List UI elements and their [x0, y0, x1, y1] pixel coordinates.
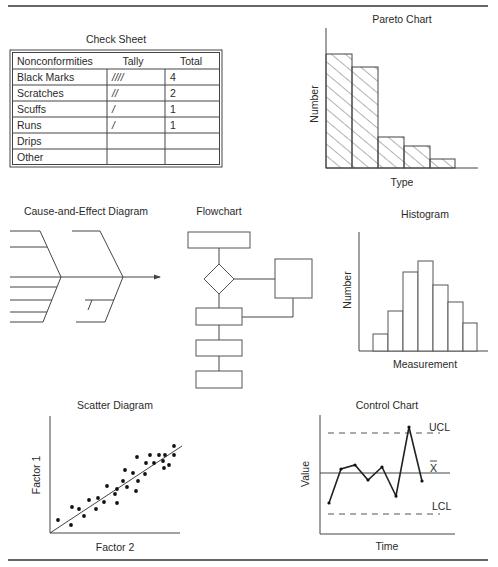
row-label: Scratches: [17, 87, 64, 99]
flowchart-title: Flowchart: [196, 205, 242, 217]
center-label: X: [430, 462, 437, 474]
check-sheet: Check Sheet Nonconformities Tally Total …: [10, 33, 222, 167]
table-row: Black Marks //// 4: [17, 71, 176, 83]
flowchart: Flowchart: [188, 205, 312, 388]
histogram: Histogram Measurement Number: [341, 208, 488, 370]
pareto-bar: [404, 146, 430, 168]
flowchart-process-box: [196, 340, 242, 356]
arrow-head-icon: [154, 275, 161, 280]
flowchart-process-box: [275, 259, 312, 298]
histogram-bar: [373, 334, 388, 351]
lcl-label: LCL: [432, 500, 451, 512]
pareto-bar: [326, 54, 352, 168]
table-row: Scratches // 2: [17, 87, 176, 99]
flowchart-decision-diamond: [204, 264, 234, 294]
row-total: 1: [170, 103, 176, 115]
check-sheet-title: Check Sheet: [86, 33, 146, 45]
histogram-bar: [403, 272, 418, 351]
scatter-ylabel: Factor 1: [30, 456, 42, 495]
row-tally: /: [111, 119, 116, 131]
pareto-ylabel: Number: [308, 85, 320, 123]
flowchart-process-box: [188, 232, 250, 248]
row-label: Drips: [17, 135, 42, 147]
histogram-bar: [448, 302, 463, 351]
row-tally: /: [111, 103, 116, 115]
scatter-xlabel: Factor 2: [96, 541, 135, 553]
scatter-title: Scatter Diagram: [77, 399, 153, 411]
pareto-bar: [352, 67, 378, 168]
control-chart: Control Chart UCL X LCL Time Value: [299, 399, 455, 552]
quality-tools-figure: Check Sheet Nonconformities Tally Total …: [0, 0, 498, 567]
histogram-bar: [418, 261, 433, 351]
row-tally: ////: [111, 71, 125, 83]
row-tally: //: [111, 87, 119, 99]
pareto-title: Pareto Chart: [372, 13, 432, 25]
histogram-ylabel: Number: [341, 271, 353, 309]
control-xlabel: Time: [376, 540, 399, 552]
fishbone-bone: [10, 231, 61, 277]
flowchart-process-box: [196, 371, 242, 388]
table-row: Drips: [17, 135, 42, 147]
histogram-bar: [433, 285, 448, 351]
row-label: Black Marks: [17, 71, 74, 83]
scatter-points: [56, 444, 176, 527]
row-label: Other: [17, 151, 44, 163]
row-label: Scuffs: [17, 103, 46, 115]
check-sheet-header: Tally: [122, 55, 144, 67]
table-row: Runs / 1: [17, 119, 176, 131]
control-data-line: [329, 427, 422, 503]
histogram-bar: [463, 323, 477, 351]
row-total: 2: [170, 87, 176, 99]
fishbone-bone: [72, 231, 123, 277]
histogram-title: Histogram: [401, 208, 449, 220]
row-label: Runs: [17, 119, 42, 131]
pareto-chart: Pareto Chart Type Number: [308, 13, 478, 188]
check-sheet-header: Nonconformities: [17, 55, 93, 67]
pareto-bar: [430, 159, 455, 168]
histogram-bar: [388, 311, 403, 351]
row-total: 4: [170, 71, 176, 83]
cause-effect-title: Cause-and-Effect Diagram: [24, 205, 148, 217]
table-row: Scuffs / 1: [17, 103, 176, 115]
row-total: 1: [170, 119, 176, 131]
check-sheet-header: Total: [180, 55, 202, 67]
ucl-label: UCL: [429, 421, 450, 433]
control-title: Control Chart: [356, 399, 419, 411]
histogram-xlabel: Measurement: [393, 358, 457, 370]
flowchart-process-box: [196, 308, 242, 325]
pareto-xlabel: Type: [391, 176, 414, 188]
table-row: Other: [17, 151, 44, 163]
pareto-bar: [378, 137, 404, 168]
cause-effect-diagram: Cause-and-Effect Diagram: [10, 205, 161, 322]
scatter-diagram: Scatter Diagram: [30, 399, 182, 553]
control-ylabel: Value: [299, 461, 311, 487]
